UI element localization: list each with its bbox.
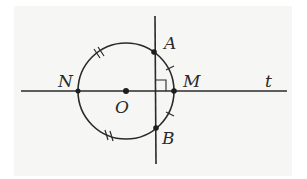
point-n — [76, 89, 81, 94]
line-ab — [155, 16, 156, 164]
point-m — [171, 88, 177, 94]
point-a — [151, 49, 157, 55]
label-o: O — [115, 97, 129, 117]
label-n: N — [57, 71, 74, 91]
right-angle-mark — [155, 80, 166, 91]
label-m: M — [182, 71, 201, 91]
point-b — [153, 125, 159, 131]
label-a: A — [162, 33, 176, 53]
label-b: B — [161, 128, 175, 148]
geometry-diagram: A B M N O t — [0, 0, 307, 179]
point-o — [123, 88, 129, 94]
label-t: t — [265, 71, 272, 91]
